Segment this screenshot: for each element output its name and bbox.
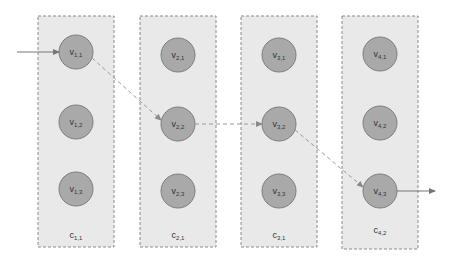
node-v3-2: v3,2	[262, 107, 296, 141]
node-v4-3: v4,3	[363, 174, 397, 208]
column-c3: v3,1 v3,2 v3,3 c3,1	[241, 16, 317, 247]
node-v4-2: v4,2	[363, 106, 397, 140]
column-c4: v4,1 v4,2 v4,3 c4,2	[342, 16, 418, 249]
node-v2-1: v2,1	[161, 38, 195, 72]
column-c1: v1,1 v1,2 v1,3 c1,1	[38, 16, 114, 247]
node-v1-1: v1,1	[59, 35, 93, 69]
column-c2: v2,1 v2,2 v2,3 c2,1	[140, 16, 216, 247]
node-v3-1: v3,1	[262, 38, 296, 72]
node-v2-3: v2,3	[161, 174, 195, 208]
node-v1-2: v1,2	[59, 105, 93, 139]
node-v1-3: v1,3	[59, 172, 93, 206]
trellis-diagram: v1,1 v1,2 v1,3 c1,1 v2,1 v2,2 v2,3 c2,1	[0, 0, 451, 262]
node-v2-2: v2,2	[161, 107, 195, 141]
node-v4-1: v4,1	[363, 37, 397, 71]
node-v3-3: v3,3	[262, 174, 296, 208]
